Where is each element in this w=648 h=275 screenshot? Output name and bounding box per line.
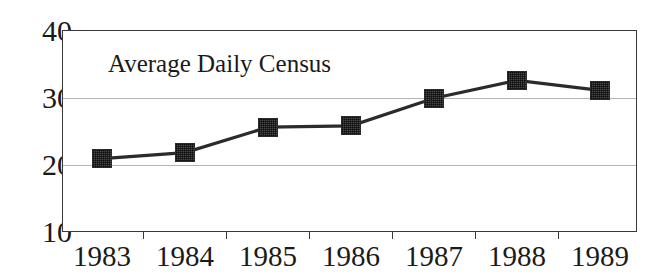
- x-axis-tick-2: [226, 232, 227, 239]
- x-axis-tick-label-1985: 1985: [223, 239, 313, 273]
- chart-figure: 40 30 20 10 Average Daily Census 1983 19…: [0, 0, 648, 275]
- data-point-marker-1983: [92, 149, 112, 168]
- x-axis-tick-1: [143, 232, 144, 239]
- data-point-marker-1986: [341, 116, 361, 135]
- x-axis-tick-6: [558, 232, 559, 239]
- data-point-marker-1988: [507, 71, 527, 90]
- x-axis-tick-label-1984: 1984: [140, 239, 230, 273]
- x-axis-tick-label-1987: 1987: [389, 239, 479, 273]
- gridline-20: [63, 165, 636, 166]
- gridline-30: [63, 98, 636, 99]
- data-point-marker-1984: [175, 143, 195, 162]
- x-axis-tick-label-1986: 1986: [306, 239, 396, 273]
- x-axis-tick-5: [475, 232, 476, 239]
- chart-title: Average Daily Census: [108, 50, 331, 78]
- data-point-marker-1987: [424, 89, 444, 108]
- data-point-marker-1989: [590, 81, 610, 100]
- x-axis-tick-4: [392, 232, 393, 239]
- x-axis-tick-3: [309, 232, 310, 239]
- x-axis-tick-label-1989: 1989: [555, 239, 645, 273]
- data-point-marker-1985: [258, 118, 278, 137]
- x-axis-tick-label-1983: 1983: [57, 239, 147, 273]
- x-axis-tick-label-1988: 1988: [472, 239, 562, 273]
